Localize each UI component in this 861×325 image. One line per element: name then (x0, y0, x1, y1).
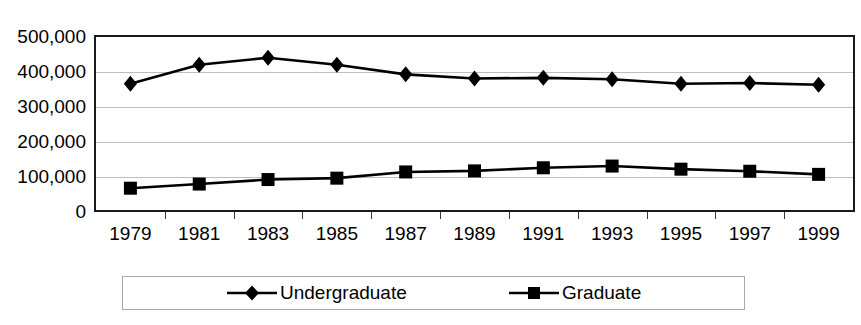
series-graduate (124, 160, 825, 195)
data-point-square (262, 173, 275, 186)
series-undergraduate (124, 50, 825, 93)
legend-item-graduate: Graduate (507, 277, 641, 309)
data-point-square (330, 172, 343, 185)
legend-label: Graduate (562, 283, 641, 303)
data-point-diamond (743, 75, 756, 91)
legend-item-undergraduate: Undergraduate (225, 277, 407, 309)
plot-inner (96, 37, 853, 210)
x-tick-label: 1983 (247, 223, 289, 245)
legend: Undergraduate Graduate (122, 276, 745, 310)
data-point-square (812, 168, 825, 181)
x-axis-ticks (94, 212, 855, 220)
x-tick (578, 212, 579, 219)
x-tick (371, 212, 372, 219)
data-point-diamond (674, 76, 687, 92)
x-tick (715, 212, 716, 219)
data-point-diamond (261, 50, 274, 66)
y-tick-label: 100,000 (0, 167, 86, 186)
data-point-diamond (124, 76, 137, 92)
y-tick-label: 0 (0, 202, 86, 221)
y-tick-label: 200,000 (0, 132, 86, 151)
x-tick-label: 1989 (453, 223, 495, 245)
x-tick (440, 212, 441, 219)
data-point-square (743, 165, 756, 178)
x-tick-label: 1997 (729, 223, 771, 245)
x-axis: 1979198119831985198719891991199319951997… (94, 223, 855, 253)
data-point-diamond (537, 70, 550, 86)
legend-label: Undergraduate (280, 283, 407, 303)
x-tick (784, 212, 785, 219)
data-point-square (193, 178, 206, 191)
data-point-diamond (468, 71, 481, 87)
x-tick-label: 1987 (385, 223, 427, 245)
x-tick (302, 212, 303, 219)
y-axis: 500,000 400,000 300,000 200,000 100,000 … (0, 0, 86, 325)
x-tick-label: 1979 (109, 223, 151, 245)
y-tick-label: 300,000 (0, 97, 86, 116)
x-tick-label: 1981 (178, 223, 220, 245)
data-point-diamond (812, 77, 825, 93)
data-point-square (468, 164, 481, 177)
data-point-square (399, 165, 412, 178)
x-tick (647, 212, 648, 219)
data-point-square (606, 160, 619, 173)
data-point-square (537, 161, 550, 174)
x-tick (234, 212, 235, 219)
data-point-square (124, 182, 137, 195)
data-point-diamond (606, 71, 619, 87)
x-tick (165, 212, 166, 219)
series-layer (96, 37, 853, 210)
data-point-diamond (330, 57, 343, 73)
y-tick-label: 400,000 (0, 62, 86, 81)
line-chart: 500,000 400,000 300,000 200,000 100,000 … (0, 0, 861, 325)
data-point-diamond (399, 66, 412, 82)
x-tick-label: 1993 (591, 223, 633, 245)
plot-area (94, 35, 855, 212)
diamond-marker-icon (225, 283, 279, 303)
x-tick-label: 1991 (522, 223, 564, 245)
x-tick-label: 1995 (660, 223, 702, 245)
data-point-diamond (193, 57, 206, 73)
x-tick-label: 1999 (797, 223, 839, 245)
x-tick-label: 1985 (316, 223, 358, 245)
data-point-square (674, 163, 687, 176)
x-tick (509, 212, 510, 219)
y-tick-label: 500,000 (0, 27, 86, 46)
square-marker-icon (507, 283, 561, 303)
